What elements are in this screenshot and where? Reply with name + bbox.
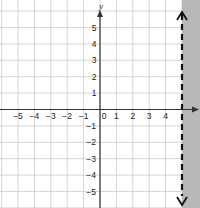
y-tick-label: −5 <box>86 187 96 197</box>
y-axis-label: y <box>98 1 103 11</box>
y-tick-label: 3 <box>92 55 97 65</box>
x-tick-label: −1 <box>79 111 89 121</box>
y-tick-label: −3 <box>86 154 96 164</box>
y-tick-label: 1 <box>92 88 97 98</box>
x-tick-label: 0 <box>102 111 107 121</box>
coordinate-plane: −5−4−3−2−10123454321−1−2−3−4−5 y <box>0 0 200 208</box>
x-tick-label: −3 <box>46 111 56 121</box>
x-tick-label: −2 <box>62 111 72 121</box>
y-tick-label: 5 <box>92 23 97 33</box>
y-tick-label: 4 <box>92 39 97 49</box>
y-tick-label: −2 <box>86 137 96 147</box>
axes <box>0 10 199 208</box>
y-tick-label: 2 <box>92 72 97 82</box>
x-tick-label: 4 <box>163 111 168 121</box>
shaded-region <box>182 0 200 208</box>
x-tick-label: −5 <box>13 111 23 121</box>
x-tick-label: 2 <box>130 111 135 121</box>
y-tick-label: −1 <box>86 121 96 131</box>
x-tick-label: −4 <box>30 111 40 121</box>
x-tick-label: 1 <box>114 111 119 121</box>
x-tick-label: 3 <box>147 111 152 121</box>
y-tick-label: −4 <box>86 170 96 180</box>
